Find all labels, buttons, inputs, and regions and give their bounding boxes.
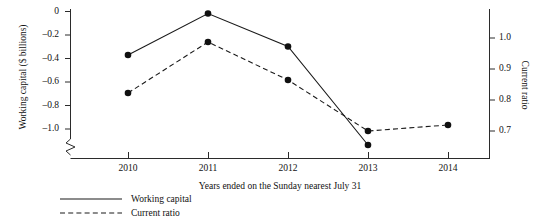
x-axis-title: Years ended on the Sunday nearest July 3…: [140, 181, 420, 191]
left-tick-label-3: –0.6: [25, 76, 59, 86]
x-tick-label-2014: 2014: [425, 163, 471, 173]
legend-swatch-solid-icon: [60, 194, 122, 204]
left-tick-label-4: –0.8: [25, 100, 59, 110]
left-axis-ticks: [65, 12, 71, 130]
x-tick-label-2011: 2011: [185, 163, 231, 173]
legend-label-current-ratio: Current ratio: [131, 208, 180, 218]
series-current-ratio-line: [128, 42, 448, 131]
series-current-ratio-markers: [125, 39, 452, 135]
right-axis-ticks: [490, 38, 496, 131]
x-axis-ticks: [129, 152, 449, 159]
right-axis-title: Current ratio: [520, 30, 530, 140]
x-tick-label-2010: 2010: [105, 163, 151, 173]
legend-item-working-capital: Working capital: [60, 192, 192, 206]
series-working-capital-line: [128, 14, 368, 146]
legend-swatch-dashed-icon: [60, 208, 122, 218]
left-axis-title: Working capital ($ billions): [18, 2, 28, 152]
left-tick-label-1: –0.2: [25, 29, 59, 39]
axis-break-icon: [66, 139, 75, 155]
chart-legend: Working capital Current ratio: [60, 192, 192, 220]
x-tick-label-2012: 2012: [265, 163, 311, 173]
series-working-capital-markers: [125, 10, 372, 148]
legend-item-current-ratio: Current ratio: [60, 206, 192, 220]
x-tick-label-2013: 2013: [345, 163, 391, 173]
chart-figure: 0 –0.2 –0.4 –0.6 –0.8 –1.0 1.0 0.9 0.8 0…: [0, 0, 545, 222]
left-tick-label-5: –1.0: [25, 123, 59, 133]
left-tick-label-2: –0.4: [25, 53, 59, 63]
legend-label-working-capital: Working capital: [131, 194, 192, 204]
left-tick-label-0: 0: [25, 6, 59, 16]
